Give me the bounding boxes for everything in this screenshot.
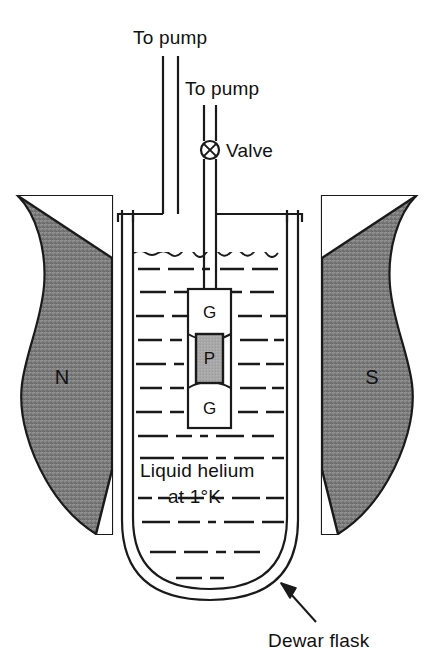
sample-label-g-top: G [203,303,216,322]
label-to-pump-inner: To pump [185,78,259,99]
label-to-pump-outer: To pump [133,27,207,48]
label-dewar-flask: Dewar flask [268,630,370,651]
label-liquid-helium-line2: at 1°K [168,486,221,507]
pole-label-north: N [55,366,69,388]
sample-label-g-bottom: G [203,399,216,418]
sample-assembly: G P G [188,289,231,428]
sample-label-p: P [204,349,215,368]
label-liquid-helium-line1: Liquid helium [140,460,255,481]
cryostat-diagram: N S [0,0,434,666]
pole-label-south: S [365,366,378,388]
label-valve: Valve [226,140,273,161]
valve-cross-circle-icon[interactable] [201,141,219,159]
